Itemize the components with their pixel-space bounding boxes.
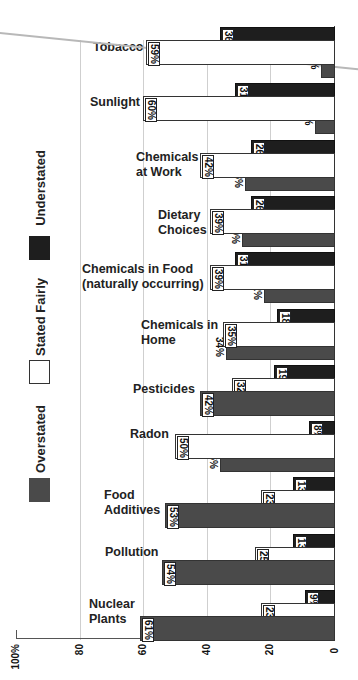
tick-80: 80 bbox=[74, 644, 85, 655]
category-label: Food Additives bbox=[104, 488, 160, 518]
bar-overstated-value: 42% bbox=[202, 393, 214, 417]
bar-overstated-value: 61% bbox=[142, 618, 154, 642]
bar-stated-fairly bbox=[210, 265, 335, 290]
tick-0: 0 bbox=[329, 648, 340, 654]
tick-60: 60 bbox=[137, 644, 148, 655]
category-label: Chemicals in Home bbox=[141, 318, 218, 348]
legend-label-understated: Understated bbox=[33, 150, 48, 226]
category-label: Pesticides bbox=[133, 382, 195, 397]
category-label: Radon bbox=[130, 427, 169, 442]
legend-swatch-stated-fairly bbox=[29, 360, 50, 384]
category-label: Dietary Choices bbox=[158, 208, 207, 238]
tick-100: 100% bbox=[10, 644, 21, 670]
category-label: Chemicals in Food (naturally occurring) bbox=[82, 262, 204, 292]
bar-stated-fairly-value: 39% bbox=[212, 211, 224, 235]
bar-overstated bbox=[200, 391, 335, 416]
bar-overstated bbox=[140, 616, 335, 641]
category-label: Chemicals at Work bbox=[136, 150, 199, 180]
bar-stated-fairly bbox=[200, 153, 335, 178]
bar-stated-fairly bbox=[210, 209, 335, 234]
category-label: Sunlight bbox=[90, 95, 140, 110]
category-label: Pollution bbox=[105, 545, 158, 560]
bar-stated-fairly-value: 59% bbox=[148, 42, 160, 66]
bar-stated-fairly-value: 60% bbox=[145, 98, 157, 122]
axis-end-tick bbox=[16, 630, 17, 639]
legend-label-stated-fairly: Stated Fairly bbox=[33, 278, 48, 356]
bar-stated-fairly bbox=[143, 96, 335, 121]
bar-overstated bbox=[165, 503, 335, 528]
bar-stated-fairly bbox=[223, 322, 335, 347]
tick-20: 20 bbox=[264, 644, 275, 655]
bar-overstated-value: 53% bbox=[167, 505, 179, 529]
legend-label-overstated: Overstated bbox=[33, 405, 48, 473]
bar-stated-fairly-value: 50% bbox=[177, 436, 189, 460]
tick-40: 40 bbox=[201, 644, 212, 655]
bar-stated-fairly bbox=[175, 434, 335, 459]
category-label: Nuclear Plants bbox=[89, 597, 135, 627]
legend-swatch-overstated bbox=[29, 478, 50, 502]
bar-overstated bbox=[162, 560, 335, 585]
legend-swatch-understated bbox=[29, 236, 50, 260]
bar-stated-fairly bbox=[146, 40, 335, 65]
gridline-80 bbox=[80, 40, 81, 640]
bar-stated-fairly-value: 42% bbox=[202, 155, 214, 179]
bar-stated-fairly-value: 35% bbox=[225, 324, 237, 348]
bar-overstated-value: 54% bbox=[164, 562, 176, 586]
bar-stated-fairly-value: 39% bbox=[212, 267, 224, 291]
